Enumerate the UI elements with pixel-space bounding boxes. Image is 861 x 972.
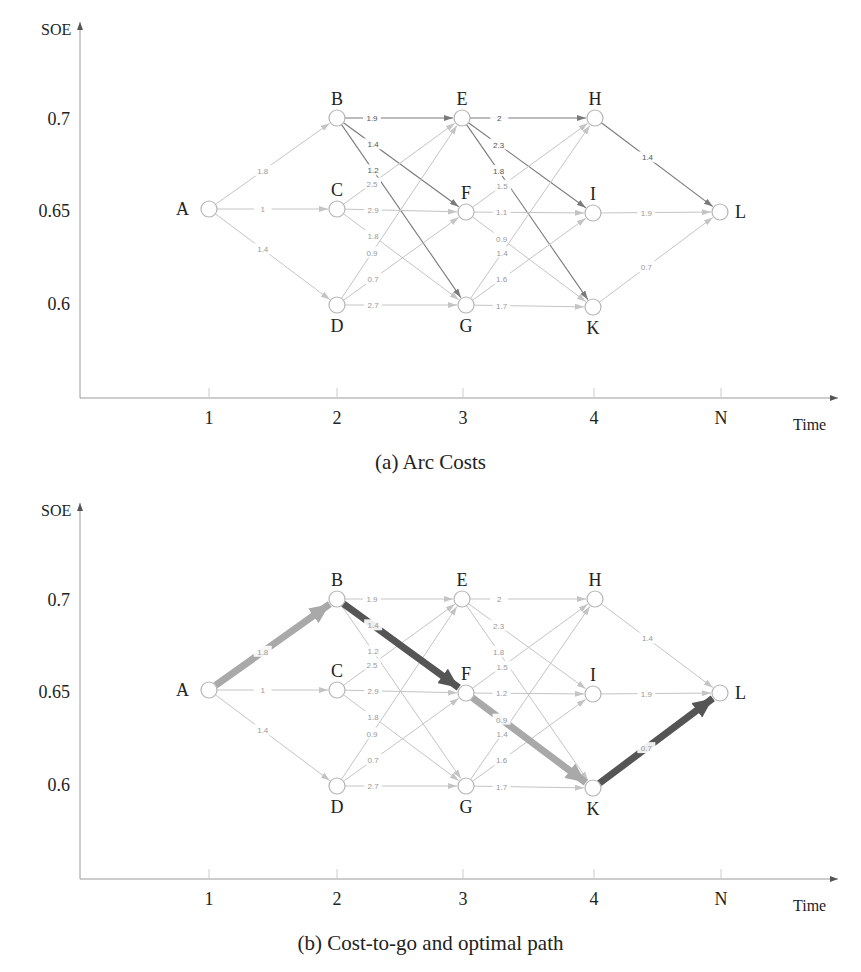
edge-A-C: 1 [217,203,328,214]
edge-cost-label: 1.5 [497,663,509,672]
node-label: A [176,680,189,700]
node-E: E [454,89,470,126]
edge-cost-label: 1.8 [257,167,269,176]
edge-cost-label: 2 [497,595,502,604]
node-label: L [735,683,746,703]
edge-D-G: 2.7 [345,299,457,310]
edge-E-I: 2.3 [468,123,585,208]
y-tick-label: 0.7 [48,590,71,610]
edge-C-G: 1.8 [343,695,458,781]
node-B: B [329,89,345,126]
node-E: E [454,570,470,607]
edge-C-G: 1.8 [343,214,458,300]
edge-A-B: 1.8 [216,123,330,204]
edge-D-F: 0.7 [343,217,458,300]
edge-cost-label: 1.6 [496,275,508,284]
x-axis-label: Time [793,897,826,914]
edge-F-I: 1.1 [474,206,584,217]
edge-cost-label: 1.2 [368,647,380,656]
edge-cost-label: 0.7 [641,744,653,753]
x-axis-label: Time [793,416,826,433]
node-label: G [460,797,473,817]
panel-a-arc-costs: SOETime0.70.650.61234N1.811.41.91.41.22.… [0,0,861,480]
y-tick-label: 0.7 [48,109,71,129]
edge-cost-label: 1.8 [257,648,269,657]
x-tick-label: 4 [590,408,599,428]
edge-H-L: 1.4 [601,123,712,207]
edge-cost-label: 1.4 [497,249,509,258]
edge-cost-label: 2.5 [366,661,378,670]
edge-cost-label: 1.9 [641,209,653,218]
edge-D-G: 2.7 [345,780,457,791]
edge-I-L: 1.9 [601,688,711,699]
edge-A-D: 1.4 [215,214,329,300]
edge-cost-label: 0.9 [496,235,508,244]
edge-cost-label: 1.4 [257,726,269,735]
edge-cost-label: 1.4 [497,730,509,739]
edge-cost-label: 1.7 [496,302,508,311]
node-label: H [589,89,602,109]
node-label: L [735,202,746,222]
edge-cost-label: 2.5 [366,180,378,189]
node-label: C [331,180,343,200]
edge-cost-label: 2.3 [493,141,505,150]
edge-cost-label: 2.7 [368,301,380,310]
x-tick-label: 4 [590,889,599,909]
node-label: K [587,799,600,819]
node-H: H [587,570,603,607]
node-label: C [331,661,343,681]
edge-cost-label: 1.9 [641,690,653,699]
edge-cost-label: 1.8 [368,232,380,241]
edge-cost-label: 0.7 [641,263,653,272]
edge-A-B: 1.8 [216,604,330,685]
edge-cost-label: 1.1 [496,208,508,217]
edge-cost-label: 1.4 [257,245,269,254]
node-label: E [457,89,468,109]
node-label: B [331,570,343,590]
node-label: I [590,184,596,204]
edge-A-D: 1.4 [215,695,329,781]
node-K: K [585,299,601,338]
node-label: D [331,316,344,336]
edge-cost-label: 1.8 [368,713,380,722]
edge-G-K: 1.7 [474,300,584,311]
edge-K-L: 0.7 [599,217,712,302]
edge-cost-label: 1.4 [368,621,380,630]
node-I: I [585,184,601,221]
edge-cost-label: 0.9 [366,249,378,258]
edge-cost-label: 1.4 [642,153,654,162]
x-tick-label: 2 [333,889,342,909]
node-label: D [331,797,344,817]
x-tick-label: 1 [205,889,214,909]
edge-cost-label: 1.9 [366,595,378,604]
edge-B-E: 1.9 [345,112,453,123]
x-tick-label: 2 [333,408,342,428]
edge-cost-label: 0.9 [496,716,508,725]
node-C: C [329,661,345,698]
edge-cost-label: 1.6 [496,756,508,765]
edge-A-C: 1 [217,684,328,695]
node-label: F [461,664,471,684]
node-D: D [329,297,345,336]
edge-G-I: 1.6 [472,218,585,300]
node-label: F [461,183,471,203]
y-tick-label: 0.65 [39,201,71,221]
edge-B-E: 1.9 [345,593,453,604]
node-label: B [331,89,343,109]
node-label: A [176,199,189,219]
arc-costs-graph: SOETime0.70.650.61234N1.811.41.91.41.22.… [0,0,861,440]
edge-E-H: 2 [470,593,586,604]
node-label: H [589,570,602,590]
node-L: L [712,202,746,222]
edge-cost-label: 1.5 [497,182,509,191]
edge-cost-label: 2.9 [368,687,380,696]
edge-cost-label: 1.4 [368,140,380,149]
node-L: L [712,683,746,703]
node-D: D [329,778,345,817]
edge-cost-label: 1.8 [493,167,505,176]
edge-cost-label: 1 [261,686,266,695]
node-H: H [587,89,603,126]
axes: SOETime0.70.650.61234N [39,502,839,914]
node-A: A [176,680,217,700]
cost-to-go-graph: SOETime0.70.650.61234N11.41.91.22.52.91.… [0,481,861,921]
